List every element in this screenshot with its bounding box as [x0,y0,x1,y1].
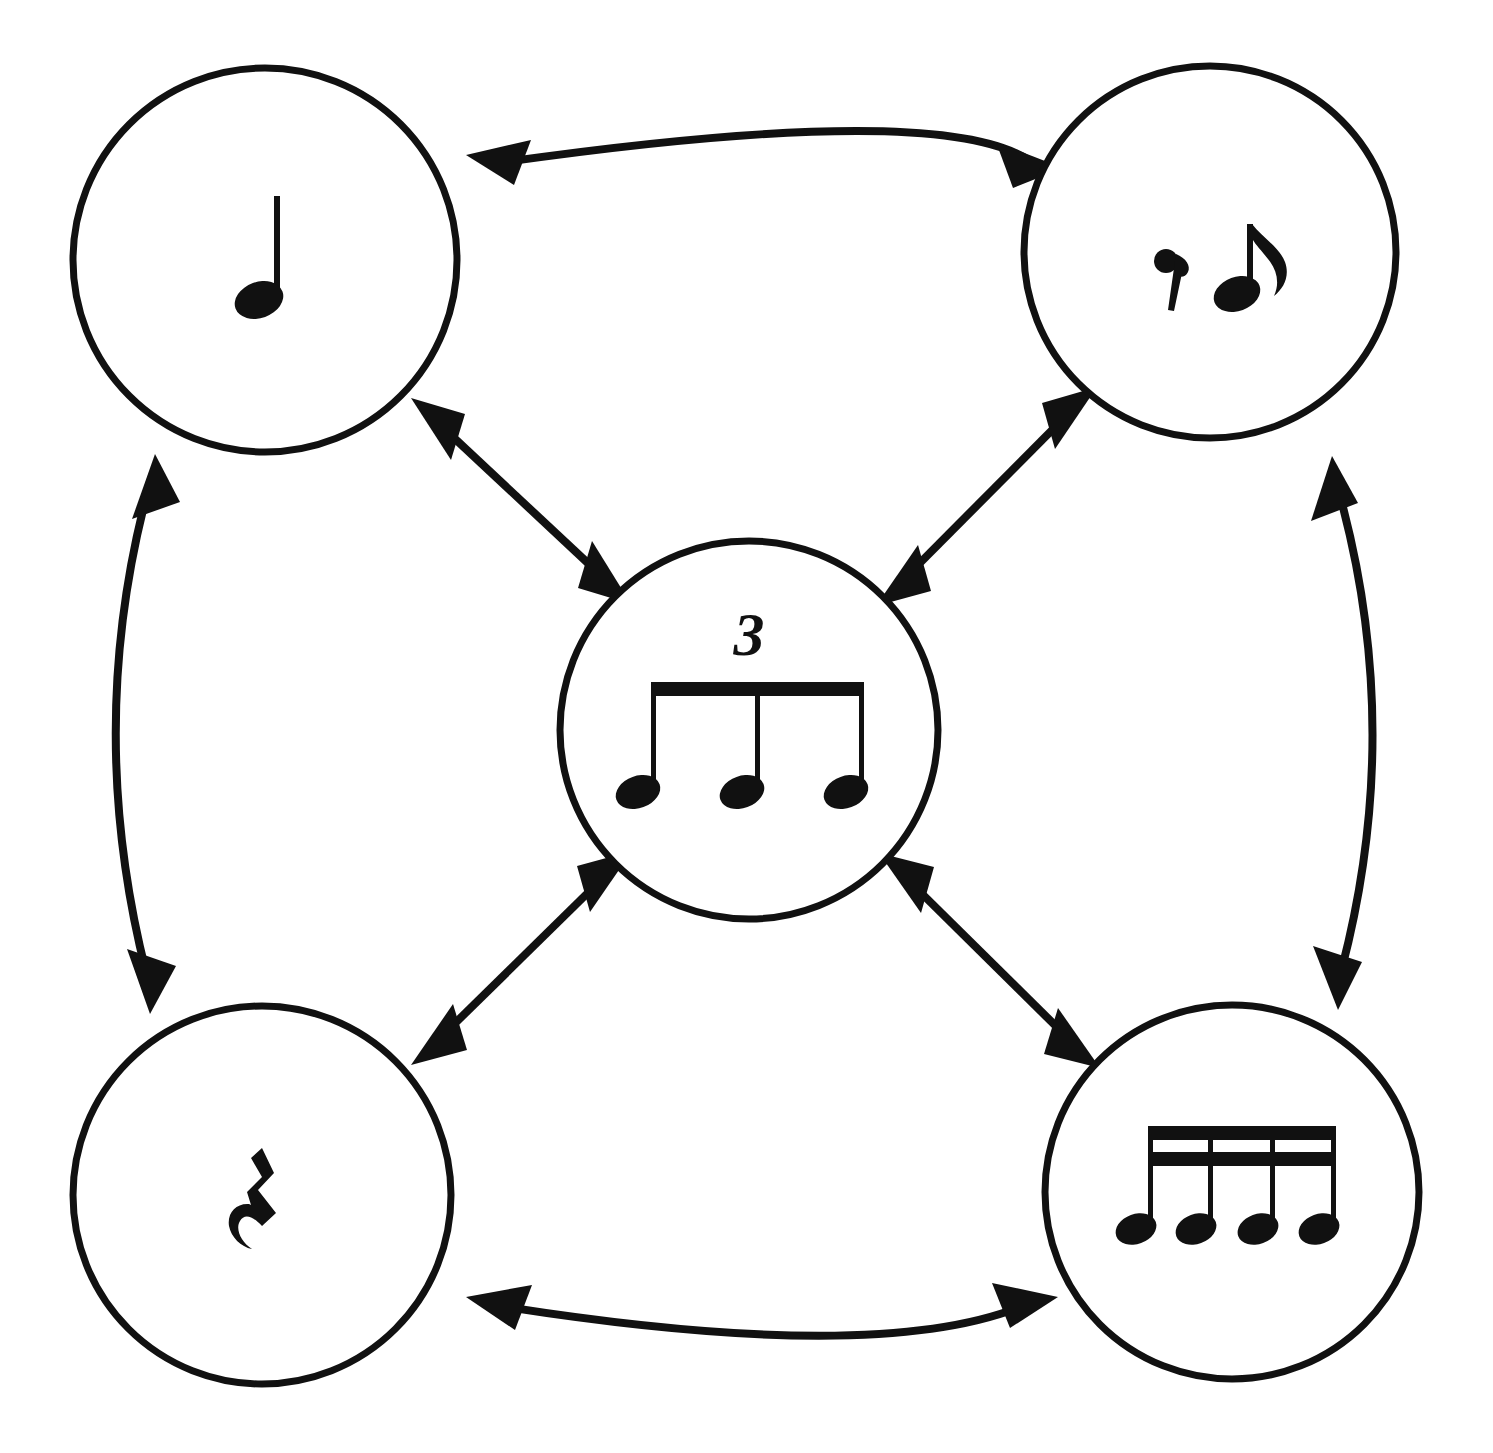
edge-left[interactable] [116,454,180,1014]
arrow-head-downleft [411,1004,467,1065]
arrow-head-left [466,1285,532,1330]
edge-top[interactable] [466,131,1063,188]
arrow-head-left [466,140,531,185]
edge-topright-center[interactable] [876,387,1097,606]
node-circle-eighth-rest-eighth-note[interactable] [1024,66,1396,438]
edge-topleft-center[interactable] [411,398,631,604]
edge-bottomleft-center[interactable] [411,851,632,1065]
node-quarter-rest[interactable] [73,1006,451,1384]
edge-right[interactable] [1311,456,1373,1010]
rhythm-relationship-diagram: 3 [0,0,1493,1453]
arrow-head-bottom [127,949,176,1014]
arrow-head-top [132,454,180,519]
edge-bottomright-center[interactable] [879,853,1100,1068]
edge-bottom[interactable] [466,1283,1058,1336]
node-circle-quarter-note[interactable] [73,68,457,452]
node-eighth-rest-eighth-note[interactable] [1024,66,1396,438]
arrow-head-top [1311,456,1358,521]
node-quarter-note[interactable] [73,68,457,452]
arrow-head-right [992,1283,1058,1328]
arrow-head-bottom [1313,946,1362,1010]
arrow-head-upleft [411,398,465,460]
arrow-head-downright [1044,1008,1100,1068]
node-circle-quarter-rest[interactable] [73,1006,451,1384]
node-circle-four-sixteenth-notes[interactable] [1045,1005,1419,1379]
node-eighth-note-triplet[interactable]: 3 [560,541,938,919]
diagram-canvas: 3 [0,0,1493,1453]
node-circle-eighth-note-triplet[interactable] [560,541,938,919]
node-four-sixteenth-notes[interactable] [1045,1005,1419,1379]
tuplet-numeral-3: 3 [733,600,765,668]
